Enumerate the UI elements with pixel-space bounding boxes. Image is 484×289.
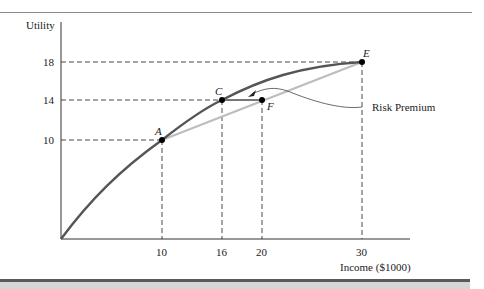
y-axis-label: Utility (26, 19, 55, 31)
y-tick-10: 10 (43, 134, 55, 146)
risk-premium-label: Risk Premium (372, 101, 436, 113)
point-a (159, 137, 165, 143)
label-f: F (266, 100, 274, 112)
point-f (259, 97, 265, 103)
utility-chart: A C F E Risk Premium Utility 18 14 10 10… (0, 0, 484, 289)
point-e (359, 59, 365, 65)
utility-curve (61, 62, 362, 239)
y-tick-18: 18 (43, 56, 55, 68)
bottom-band (0, 279, 470, 289)
point-c (219, 97, 225, 103)
arrowhead-icon (248, 90, 256, 97)
label-c: C (215, 85, 223, 97)
x-tick-16: 16 (216, 246, 228, 258)
label-e: E (362, 47, 370, 59)
x-tick-10: 10 (156, 246, 168, 258)
label-a: A (154, 125, 162, 137)
vertical-reference-lines (162, 62, 362, 239)
y-tick-14: 14 (43, 94, 55, 106)
x-tick-30: 30 (356, 246, 368, 258)
x-axis-label: Income ($1000) (340, 261, 411, 274)
x-tick-20: 20 (256, 246, 268, 258)
